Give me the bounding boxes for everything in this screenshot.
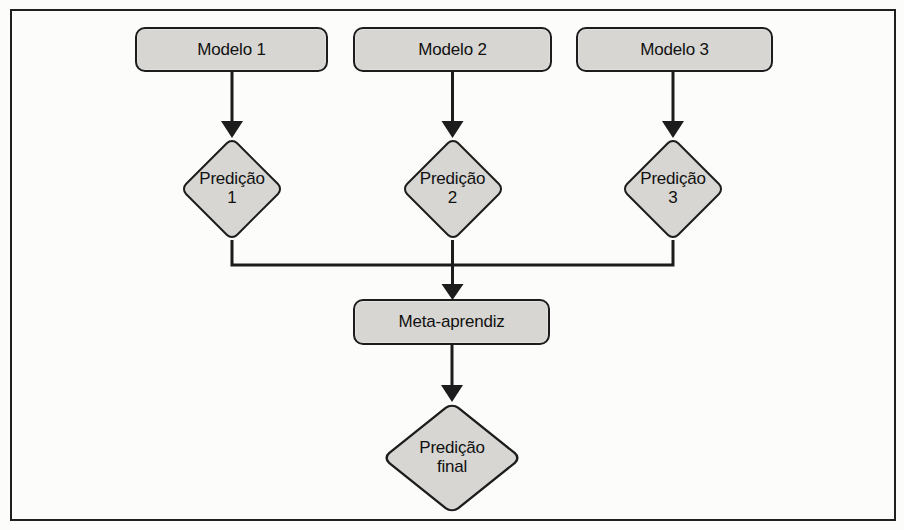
node-prediction-2-label: Predição 2	[420, 170, 486, 207]
arrowhead-model1-to-prediction1	[221, 121, 243, 138]
node-model-3: Modelo 3	[576, 27, 773, 72]
node-prediction-3-label: Predição 3	[640, 170, 706, 207]
node-model-3-label: Modelo 3	[640, 40, 708, 60]
node-model-1: Modelo 1	[135, 27, 328, 72]
node-prediction-3: Predição 3	[621, 137, 725, 241]
stacking-diagram-figure: Modelo 1 Modelo 2 Modelo 3 Predição 1 Pr…	[0, 0, 904, 530]
prediction-1-number: 1	[199, 189, 265, 208]
prediction-2-text: Predição	[420, 170, 486, 189]
node-meta-learner-label: Meta-aprendiz	[398, 312, 504, 332]
node-prediction-1: Predição 1	[180, 137, 284, 241]
arrowhead-meta-to-final	[441, 385, 463, 402]
arrowhead-model3-to-prediction3	[662, 121, 684, 138]
arrowhead-model2-to-prediction2	[442, 121, 464, 138]
prediction-3-text: Predição	[640, 170, 706, 189]
node-meta-learner: Meta-aprendiz	[353, 299, 550, 345]
node-model-2-label: Modelo 2	[418, 40, 486, 60]
prediction-3-number: 3	[640, 189, 706, 208]
node-prediction-1-label: Predição 1	[199, 170, 265, 207]
prediction-1-text: Predição	[199, 170, 265, 189]
final-prediction-word: final	[419, 458, 485, 477]
node-model-1-label: Modelo 1	[197, 40, 265, 60]
node-model-2: Modelo 2	[353, 27, 552, 72]
node-final-prediction-label: Predição final	[419, 439, 485, 476]
prediction-2-number: 2	[420, 189, 486, 208]
arrowhead-bus-to-meta	[442, 284, 464, 300]
node-prediction-2: Predição 2	[401, 137, 505, 241]
final-prediction-text: Predição	[419, 439, 485, 458]
node-final-prediction: Predição final	[381, 401, 523, 514]
